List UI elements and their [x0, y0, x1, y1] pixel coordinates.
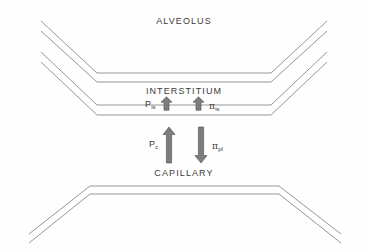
arrow-up-p-c-icon — [162, 126, 176, 164]
force-subscript-p-c: c — [155, 144, 158, 150]
force-label-pi-is: πis — [209, 101, 219, 111]
force-label-p-c: Pc — [149, 139, 158, 149]
arrow-up-p-is-icon — [160, 96, 173, 111]
alveolar-capillary-diagram: ALVEOLUS INTERSTITIUM CAPILLARY Pis πis … — [0, 0, 367, 252]
force-subscript-pi-pl: pl — [218, 146, 223, 152]
membrane-lines — [0, 0, 367, 252]
force-label-p-is: Pis — [145, 99, 156, 109]
arrow-down-pi-pl-icon — [194, 126, 208, 164]
region-label-capillary: CAPILLARY — [154, 168, 213, 178]
alveolar-wall-line-2 — [41, 31, 327, 82]
capillary-wall-line-1 — [29, 186, 341, 234]
force-subscript-pi-is: is — [215, 106, 219, 112]
force-label-pi-pl: πpl — [212, 141, 223, 151]
alveolar-wall-line-3 — [41, 52, 327, 105]
capillary-wall-line-2 — [29, 194, 341, 243]
arrow-up-pi-is-icon — [192, 96, 205, 111]
force-subscript-p-is: is — [151, 104, 155, 110]
region-label-interstitium: INTERSTITIUM — [146, 86, 222, 96]
region-label-alveolus: ALVEOLUS — [156, 16, 212, 26]
alveolar-wall-line-1 — [41, 21, 327, 73]
